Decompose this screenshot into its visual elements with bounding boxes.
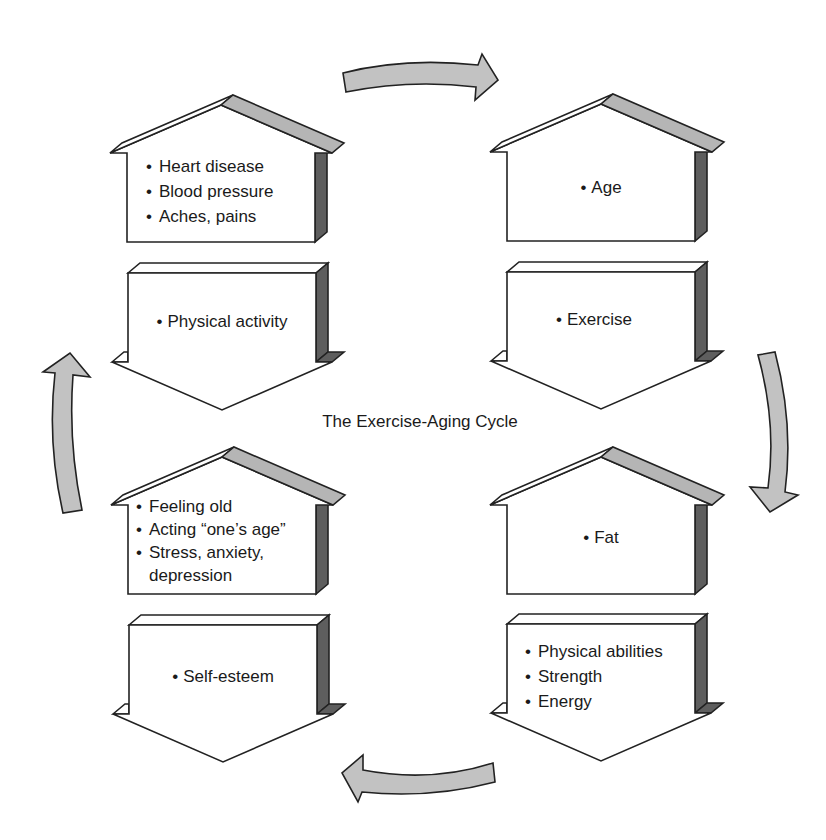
exercise-aging-cycle-diagram: •Heart disease •Blood pressure •Aches, p…	[0, 0, 826, 840]
item-text: Blood pressure	[159, 179, 316, 204]
bullet-icon: •	[583, 528, 589, 547]
bullet-icon: •	[146, 179, 159, 204]
curved-arrow-left-icon	[342, 755, 495, 802]
house-block-top-right	[490, 94, 724, 241]
item-text: Heart disease	[159, 154, 316, 179]
bullet-icon: •	[525, 689, 538, 714]
down-arrow-bottom-left-label: •Self-esteem	[129, 664, 317, 689]
list-item: •Strength	[525, 664, 695, 689]
curved-arrow-down-icon	[750, 352, 798, 512]
curved-arrow-up-icon	[43, 353, 90, 513]
bullet-icon: •	[157, 312, 163, 331]
item-text: Stress, anxiety, depression	[149, 541, 314, 587]
item-text: Strength	[538, 664, 695, 689]
bullet-icon: •	[525, 664, 538, 689]
item-text: Physical abilities	[538, 639, 695, 664]
bullet-icon: •	[146, 154, 159, 179]
bullet-icon: •	[136, 541, 149, 564]
down-arrow-block-top-right	[491, 262, 723, 409]
bullet-icon: •	[525, 639, 538, 664]
item-text: Feeling old	[149, 495, 314, 518]
item-text: Age	[591, 178, 621, 197]
list-item: •Energy	[525, 689, 695, 714]
bullet-icon: •	[136, 518, 149, 541]
list-item: •Stress, anxiety, depression	[136, 541, 314, 587]
house-bottom-right-label: •Fat	[507, 525, 695, 550]
item-text: Acting “one’s age”	[149, 518, 314, 541]
item-text: Aches, pains	[159, 204, 316, 229]
bullet-icon: •	[556, 310, 562, 329]
bullet-icon: •	[136, 495, 149, 518]
down-arrow-top-left-label: •Physical activity	[128, 309, 316, 334]
bullet-icon: •	[172, 667, 178, 686]
list-item: •Physical abilities	[525, 639, 695, 664]
list-item: •Acting “one’s age”	[136, 518, 314, 541]
down-arrow-bottom-right-list: •Physical abilities •Strength •Energy	[525, 639, 695, 714]
house-block-bottom-right	[490, 447, 724, 594]
down-arrow-top-right-label: •Exercise	[500, 307, 688, 332]
bullet-icon: •	[146, 204, 159, 229]
item-text: Fat	[594, 528, 619, 547]
item-text: Energy	[538, 689, 695, 714]
item-text: Exercise	[567, 310, 632, 329]
item-text: Physical activity	[167, 312, 287, 331]
diagram-title: The Exercise-Aging Cycle	[290, 411, 550, 433]
list-item: •Heart disease	[146, 154, 316, 179]
house-top-right-label: •Age	[507, 175, 695, 200]
house-top-left-list: •Heart disease •Blood pressure •Aches, p…	[146, 154, 316, 229]
list-item: •Aches, pains	[146, 204, 316, 229]
item-text: Self-esteem	[183, 667, 274, 686]
list-item: •Feeling old	[136, 495, 314, 518]
bullet-icon: •	[580, 178, 586, 197]
list-item: •Blood pressure	[146, 179, 316, 204]
down-arrow-block-top-left	[112, 263, 344, 410]
house-bottom-left-list: •Feeling old •Acting “one’s age” •Stress…	[136, 495, 314, 587]
curved-arrow-right-icon	[343, 54, 498, 100]
